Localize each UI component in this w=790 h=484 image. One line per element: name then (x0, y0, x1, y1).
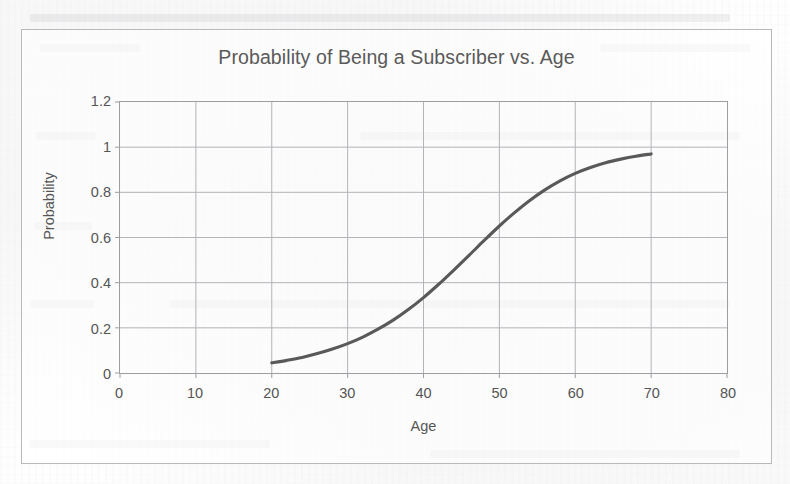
y-axis-tick-label: 1 (103, 139, 111, 155)
x-axis-tick-label: 20 (263, 385, 279, 401)
x-axis-tick-label: 30 (339, 385, 355, 401)
y-axis-tick-label: 0.4 (91, 275, 111, 291)
chart-title: Probability of Being a Subscriber vs. Ag… (22, 46, 771, 69)
x-axis-tick-label: 70 (644, 385, 660, 401)
y-axis-tick-label: 0.2 (91, 321, 111, 337)
x-axis-tick-label: 0 (115, 385, 123, 401)
chart-frame: Probability of Being a Subscriber vs. Ag… (21, 29, 772, 464)
y-axis-tick-label: 1.2 (91, 93, 111, 109)
x-axis-title: Age (119, 418, 728, 434)
x-axis-tick-labels: 01020304050607080 (119, 385, 728, 407)
y-axis-tick-label: 0.6 (91, 230, 111, 246)
x-axis-tick-label: 60 (568, 385, 584, 401)
y-axis-title: Probability (41, 172, 57, 240)
axis-tick-marks (115, 102, 727, 378)
x-axis-tick-label: 80 (720, 385, 736, 401)
chart-plot-svg (120, 102, 727, 373)
x-axis-tick-label: 50 (492, 385, 508, 401)
y-axis-tick-labels: 00.20.40.60.811.2 (63, 101, 111, 374)
y-axis-tick-label: 0.8 (91, 184, 111, 200)
data-series-line (272, 154, 651, 363)
x-axis-tick-label: 10 (187, 385, 203, 401)
plot-area (119, 101, 728, 374)
ghost-text-line (30, 14, 730, 22)
x-axis-tick-label: 40 (415, 385, 431, 401)
grid-lines (120, 102, 727, 373)
y-axis-tick-label: 0 (103, 366, 111, 382)
